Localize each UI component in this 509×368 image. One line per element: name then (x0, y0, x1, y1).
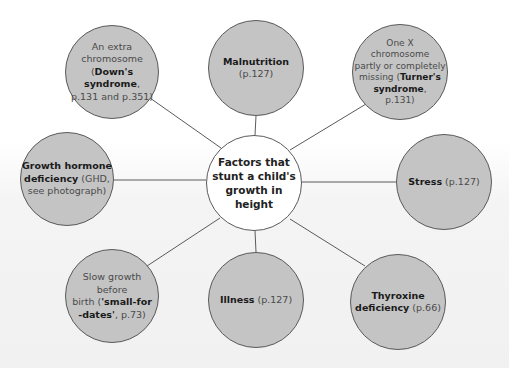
node-line: Growth hormone (22, 160, 112, 173)
connector-downs (150, 98, 221, 148)
node-label: Stress (p.127) (404, 176, 483, 189)
node-turners-syndrome: One X chromosome partly or completely mi… (352, 24, 448, 120)
node-downs-syndrome: An extra chromosome (Down's syndrome, p.… (65, 25, 159, 119)
node-line: birth ('small-for (72, 296, 152, 309)
node-line: missing (Turner's (354, 72, 445, 84)
node-line: deficiency (p.66) (355, 302, 441, 315)
node-line: -dates', p.73) (72, 309, 152, 322)
node-line: Thyroxine (355, 290, 441, 303)
node-growth-hormone-deficiency: Growth hormone deficiency (GHD, see phot… (20, 132, 114, 226)
node-line: chromosome (354, 49, 445, 61)
node-line: (p.127) (223, 68, 289, 81)
node-label: One X chromosome partly or completely mi… (353, 38, 446, 107)
node-line: before (72, 284, 152, 297)
node-illness: Illness (p.127) (208, 252, 304, 348)
node-line: syndrome, (354, 84, 445, 96)
node-line: p.131 and p.351) (70, 91, 154, 104)
node-stress: Stress (p.127) (396, 134, 492, 230)
node-small-for-dates: Slow growth before birth ('small-for -da… (65, 249, 159, 343)
node-thyroxine-deficiency: Thyroxine deficiency (p.66) (350, 254, 446, 350)
connector-small-for-dates (147, 218, 220, 266)
node-label: Thyroxine deficiency (p.66) (351, 290, 445, 315)
connector-malnutrition (255, 116, 256, 135)
node-line: see photograph) (22, 185, 112, 198)
center-line: height (212, 197, 296, 211)
node-line: Malnutrition (223, 56, 289, 69)
node-label: Illness (p.127) (216, 294, 296, 307)
center-line: stunt a child's (212, 169, 296, 183)
node-malnutrition: Malnutrition (p.127) (208, 20, 304, 116)
node-label: Growth hormone deficiency (GHD, see phot… (22, 160, 112, 198)
node-line: p.131) (354, 95, 445, 107)
center-line: growth in (212, 183, 296, 197)
node-line: chromosome (70, 53, 154, 66)
connector-thyroxine (290, 219, 365, 266)
node-label: Slow growth before birth ('small-for -da… (72, 271, 152, 321)
node-line: Stress (p.127) (408, 176, 479, 189)
node-line: partly or completely (354, 61, 445, 73)
node-line: Slow growth (72, 271, 152, 284)
node-line: One X (354, 38, 445, 50)
connector-illness (255, 231, 256, 252)
node-line: An extra (70, 41, 154, 54)
center-line: Factors that (212, 155, 296, 169)
center-node: Factors that stunt a child's growth in h… (206, 135, 302, 231)
connector-turners (290, 104, 366, 150)
node-label: Malnutrition (p.127) (219, 56, 293, 81)
node-line: Illness (p.127) (220, 294, 292, 307)
node-line: deficiency (GHD, (22, 173, 112, 186)
node-line: (Down's syndrome, (70, 66, 154, 91)
center-node-label: Factors that stunt a child's growth in h… (208, 155, 300, 211)
node-label: An extra chromosome (Down's syndrome, p.… (66, 41, 158, 104)
